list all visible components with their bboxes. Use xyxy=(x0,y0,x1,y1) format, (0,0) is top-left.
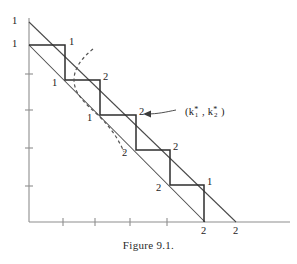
annotation-open-paren: (k xyxy=(185,106,194,117)
annotation-sub-1: 1 xyxy=(195,111,199,119)
step-label-1: 1 xyxy=(69,37,74,48)
step-label-7: 2 xyxy=(173,142,178,153)
step-label-8: 2 xyxy=(156,183,161,194)
dashed-indifference-curve xyxy=(74,49,124,152)
annotation-sub-2: 2 xyxy=(214,111,218,119)
callout-group xyxy=(143,110,176,118)
figure-container: 1 1 1 1 2 1 2 2 2 2 1 2 2 (k*1, k*2) Fig… xyxy=(0,0,297,264)
y-intercept-upper-label: 1 xyxy=(12,16,17,27)
annotation-comma: , k xyxy=(202,106,213,117)
figure-caption: Figure 9.1. xyxy=(0,239,297,251)
annotation-close-paren: ) xyxy=(221,106,225,117)
step-label-5: 2 xyxy=(139,107,144,118)
step-label-6: 2 xyxy=(122,148,127,159)
optimal-point-annotation: (k*1, k*2) xyxy=(185,107,225,118)
upper-constraint-line xyxy=(29,22,236,222)
x-intercept-lower-label: 2 xyxy=(201,226,206,237)
step-label-9: 1 xyxy=(207,177,212,188)
step-label-3: 2 xyxy=(103,72,108,83)
y-intercept-lower-label: 1 xyxy=(12,39,17,50)
step-label-2: 1 xyxy=(52,78,57,89)
lower-constraint-line xyxy=(29,45,205,222)
figure-diagram xyxy=(0,0,297,264)
constraint-lines-group xyxy=(29,22,236,222)
x-intercept-upper-label: 2 xyxy=(233,226,238,237)
step-label-4: 1 xyxy=(87,113,92,124)
